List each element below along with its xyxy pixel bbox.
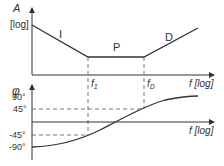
breakpoint-markers: f1 fD (88, 57, 155, 135)
tick-neg90: -90° (9, 142, 26, 152)
tick-45: 45° (13, 104, 27, 114)
phase-plot: φ 90° 45° -45° -90° f [log] (9, 84, 214, 160)
amplitude-y-label: A (12, 2, 20, 14)
region-label-p: P (113, 41, 120, 53)
region-label-i: I (59, 28, 62, 40)
region-label-d: D (165, 31, 173, 43)
phase-x-label: f [log] (189, 125, 214, 136)
f1-label: f1 (91, 78, 98, 90)
tick-90: 90° (12, 92, 26, 102)
bode-diagram: A [log] I P D f [log] f1 fD φ 90° 45° -4… (0, 0, 224, 166)
amplitude-plot: A [log] I P D f [log] (10, 2, 214, 89)
amplitude-y-unit: [log] (10, 19, 29, 30)
amplitude-x-label: f [log] (189, 78, 214, 89)
tick-neg45: -45° (9, 130, 26, 140)
fd-label: fD (147, 78, 155, 90)
